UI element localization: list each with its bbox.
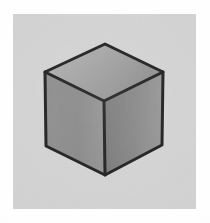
cube-drawing	[0, 0, 210, 223]
edge-vertical-center	[104, 101, 105, 175]
figure-container: Shaded cube line drawing cube Top face L…	[0, 0, 210, 223]
